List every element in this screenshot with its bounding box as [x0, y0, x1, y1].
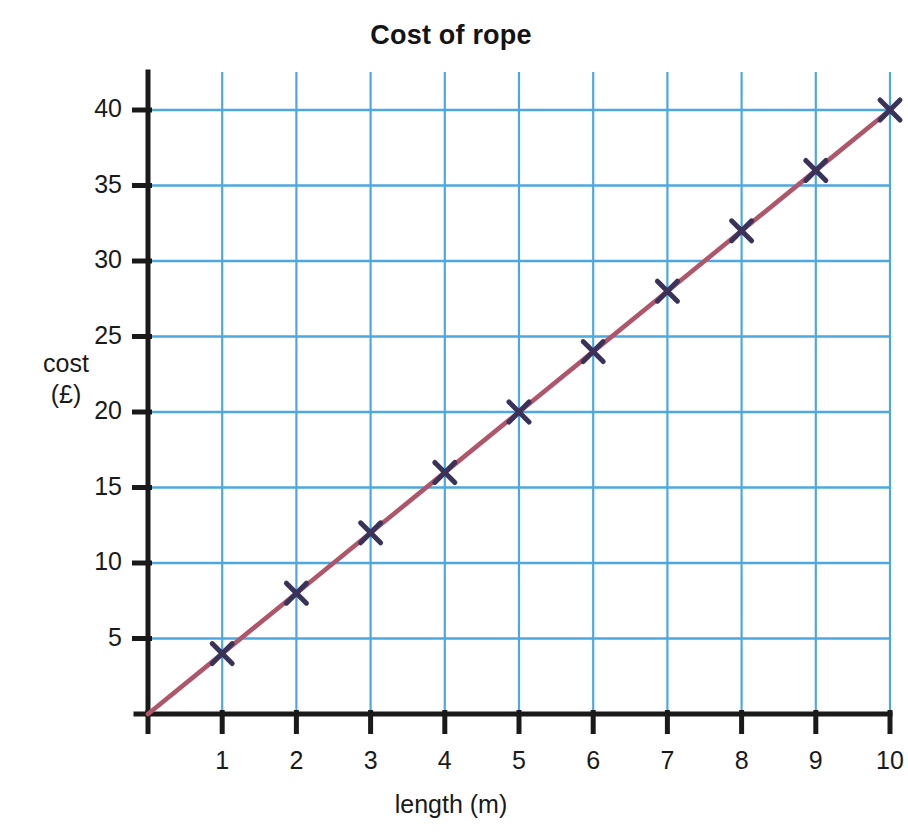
x-tick-label: 10: [860, 746, 908, 775]
x-tick-label: 9: [786, 746, 846, 775]
x-tick-label: 3: [341, 746, 401, 775]
y-tick-label: 5: [62, 623, 122, 652]
x-tick-label: 1: [192, 746, 252, 775]
grid-lines-vertical: [222, 72, 890, 714]
x-tick-label: 2: [266, 746, 326, 775]
y-tick-label: 35: [62, 170, 122, 199]
x-tick-label: 7: [637, 746, 697, 775]
y-tick-label: 25: [62, 321, 122, 350]
y-tick-label: 10: [62, 547, 122, 576]
x-tick-label: 4: [415, 746, 475, 775]
x-tick-label: 8: [712, 746, 772, 775]
y-tick-label: 20: [62, 396, 122, 425]
y-tick-label: 15: [62, 472, 122, 501]
y-tick-label: 40: [62, 94, 122, 123]
x-tick-label: 5: [489, 746, 549, 775]
y-tick-label: 30: [62, 245, 122, 274]
x-tick-label: 6: [563, 746, 623, 775]
axes: [136, 72, 890, 714]
